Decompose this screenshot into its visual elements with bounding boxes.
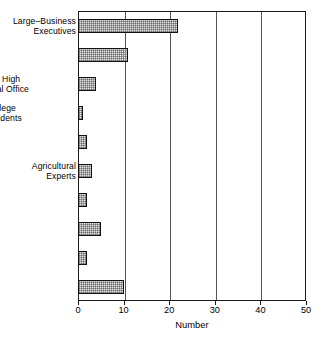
x-tick-label: 0	[63, 305, 93, 315]
x-tick-label: 20	[154, 305, 184, 315]
bar	[78, 251, 87, 265]
bar	[78, 106, 83, 120]
bar	[78, 48, 128, 62]
bar	[78, 77, 96, 91]
bar-row: College Presidents	[0, 98, 325, 127]
category-label: Won High Political Office	[0, 73, 76, 94]
bar-row: Large–Business Executives	[0, 11, 325, 40]
x-tick-label: 10	[109, 305, 139, 315]
bar-row: Military Leaders	[0, 127, 325, 156]
x-tick-label: 40	[245, 305, 275, 315]
bar	[78, 164, 92, 178]
category-label: Business Lawyers	[0, 44, 76, 65]
bar-row: Business Lawyers	[0, 40, 325, 69]
bar-row: Women	[0, 243, 325, 272]
category-label: Large–Business Executives	[0, 15, 76, 36]
bar	[78, 135, 87, 149]
x-axis-title: Number	[78, 319, 306, 330]
category-label: College Presidents	[0, 102, 76, 123]
category-label: Women	[0, 252, 76, 263]
x-tick-label: 50	[291, 305, 321, 315]
bar	[78, 280, 124, 294]
bar	[78, 19, 178, 33]
x-axis-ticks: 01020304050	[0, 301, 325, 317]
bar-rows: Large–Business ExecutivesBusiness Lawyer…	[0, 11, 325, 301]
bar-row: Publicists	[0, 214, 325, 243]
category-label: Labor Experts	[0, 194, 76, 205]
bar-chart: Large–Business ExecutivesBusiness Lawyer…	[0, 0, 325, 337]
bar-row: Agricultural Experts	[0, 156, 325, 185]
bar-row: Labor Experts	[0, 185, 325, 214]
category-label: Military Leaders	[0, 136, 76, 147]
bar-row: Won High Political Office	[0, 69, 325, 98]
bar	[78, 222, 101, 236]
bar	[78, 193, 87, 207]
x-tick-label: 30	[200, 305, 230, 315]
category-label: Publicists	[0, 223, 76, 234]
category-label: Agricultural Experts	[0, 160, 76, 181]
bar-row: Number aged less than 45	[0, 272, 325, 301]
category-label: Number aged less than 45	[0, 276, 76, 297]
